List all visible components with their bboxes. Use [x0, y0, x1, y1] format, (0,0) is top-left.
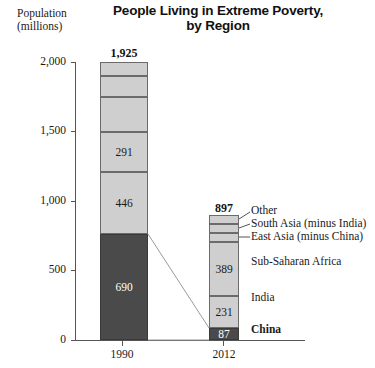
bar-segment-2012-other[interactable] — [209, 215, 239, 224]
legend-label-china: China — [251, 323, 281, 335]
x-tick-label-1990: 1990 — [87, 348, 157, 360]
y-tick-label-2000: 2,000 — [20, 55, 66, 67]
bar-total-label-1990: 1,925 — [84, 46, 164, 61]
x-tick-mark-1990 — [122, 341, 123, 346]
bar-segment-1990-east-asia[interactable] — [100, 97, 148, 132]
chart-canvas: Population (millions) People Living in E… — [0, 0, 375, 368]
y-tick-mark-500 — [71, 270, 76, 271]
chart-title-line2: by Region — [88, 18, 348, 33]
y-tick-label-500: 500 — [20, 263, 66, 275]
y-tick-label-1000: 1,000 — [20, 194, 66, 206]
bar-value-1990-india: 446 — [115, 197, 132, 209]
y-tick-mark-1000 — [71, 201, 76, 202]
y-tick-label-1500: 1,500 — [20, 124, 66, 136]
bar-value-2012-sub-saharan-africa: 389 — [215, 263, 232, 275]
chart-title-line1: People Living in Extreme Poverty, — [88, 3, 348, 18]
y-tick-mark-0 — [71, 340, 76, 341]
x-tick-mark-2012 — [223, 341, 224, 346]
bar-segment-2012-india[interactable]: 231 — [209, 296, 239, 328]
stacked-bar-2012[interactable]: 389 231 87 — [209, 215, 239, 340]
y-axis-label-line1: Population — [17, 7, 67, 20]
y-axis-label: Population (millions) — [17, 7, 67, 33]
legend-label-south-asia: South Asia (minus India) — [251, 217, 366, 229]
y-tick-mark-2000 — [71, 62, 76, 63]
bar-segment-1990-other[interactable] — [100, 62, 148, 76]
bar-segment-1990-china[interactable]: 690 — [100, 234, 148, 340]
y-tick-mark-1500 — [71, 131, 76, 132]
bar-value-1990-sub-saharan-africa: 291 — [115, 146, 132, 158]
stacked-bar-1990[interactable]: 291 446 690 — [100, 62, 148, 340]
bar-value-2012-china: 87 — [218, 328, 230, 340]
bar-segment-1990-india[interactable]: 446 — [100, 172, 148, 234]
x-axis-line — [75, 340, 305, 341]
legend-label-sub-saharan-africa: Sub-Saharan Africa — [251, 255, 341, 267]
chart-title: People Living in Extreme Poverty, by Reg… — [88, 3, 348, 33]
bar-segment-1990-sub-saharan-africa[interactable]: 291 — [100, 132, 148, 172]
bar-value-2012-india: 231 — [215, 306, 232, 318]
x-tick-label-2012: 2012 — [189, 348, 259, 360]
bar-segment-2012-east-asia[interactable] — [209, 233, 239, 242]
bar-segment-2012-south-asia[interactable] — [209, 224, 239, 233]
legend-label-east-asia: East Asia (minus China) — [251, 230, 363, 242]
legend-label-other: Other — [251, 204, 277, 216]
y-tick-label-0: 0 — [20, 333, 66, 345]
y-axis-label-line2: (millions) — [17, 20, 67, 33]
bar-value-1990-china: 690 — [115, 281, 132, 293]
bar-segment-2012-sub-saharan-africa[interactable]: 389 — [209, 242, 239, 296]
legend-label-india: India — [251, 291, 275, 303]
bar-segment-2012-china[interactable]: 87 — [209, 328, 239, 340]
bar-segment-1990-south-asia[interactable] — [100, 76, 148, 97]
